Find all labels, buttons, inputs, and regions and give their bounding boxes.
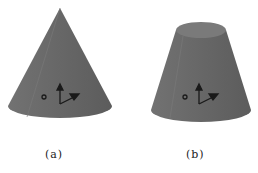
caption-b: (b) bbox=[186, 148, 205, 161]
caption-a: (a) bbox=[45, 148, 63, 161]
figure-canvas bbox=[0, 0, 258, 173]
cone-solid bbox=[8, 8, 112, 118]
frustum-solid bbox=[151, 22, 251, 122]
